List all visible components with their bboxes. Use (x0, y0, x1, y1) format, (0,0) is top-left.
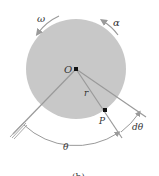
rotating-disc-diagram: ω α O r P dθ θ (b) (0, 0, 159, 176)
dtheta-label: dθ (132, 122, 144, 132)
point-p (103, 108, 107, 112)
theta-arc (24, 125, 118, 146)
radius-label: r (84, 88, 89, 98)
origin-label: O (64, 64, 72, 75)
fixed-support-hatch-icon (10, 122, 27, 139)
omega-label: ω (37, 13, 45, 24)
alpha-label: α (113, 17, 120, 28)
theta-label: θ (63, 142, 69, 152)
origin-point (74, 67, 78, 71)
figure-caption: (b) (72, 172, 85, 176)
point-p-label: P (98, 116, 106, 126)
